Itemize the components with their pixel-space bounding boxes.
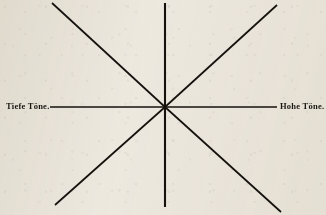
low-tones-axis-label: Tiefe Töne. [6, 101, 50, 111]
ray-upper-right [165, 5, 277, 107]
figure-root: Tiefe Töne. Hohe Töne. [0, 0, 326, 215]
high-tones-axis-label: Hohe Töne. [280, 101, 324, 111]
ray-lower-right [165, 107, 281, 212]
ray-lower-left [55, 107, 165, 205]
figure-caption [4, 207, 322, 215]
ray-upper-left [52, 3, 165, 107]
